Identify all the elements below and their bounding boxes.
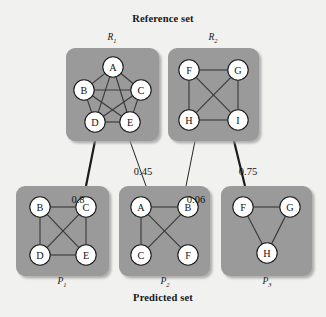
node-label: D <box>36 250 43 261</box>
graph-node-r2-f[interactable]: F <box>179 60 199 80</box>
cluster-label-subscript: 2 <box>166 281 169 288</box>
node-label: F <box>240 202 246 213</box>
node-label: A <box>109 62 117 73</box>
match-line-r1-p1[interactable] <box>86 141 95 186</box>
cluster-label-p2: P2 <box>145 276 185 288</box>
graph-node-r1-a[interactable]: A <box>103 57 123 77</box>
graph-node-p1-d[interactable]: D <box>30 245 50 265</box>
node-label: H <box>263 248 271 259</box>
node-label: E <box>83 250 89 261</box>
cluster-label-subscript: 2 <box>214 37 217 44</box>
match-line-r2-p2[interactable] <box>186 141 195 186</box>
node-label: I <box>236 115 240 126</box>
match-lines-layer <box>86 141 245 186</box>
graph-node-p1-b[interactable]: B <box>30 197 50 217</box>
graph-node-r2-h[interactable]: H <box>179 110 199 130</box>
cluster-label-subscript: 1 <box>63 281 66 288</box>
match-weight-r1-p1: 0.8 <box>71 194 84 205</box>
reference-set-title: Reference set <box>0 13 326 24</box>
graph-node-p3-f[interactable]: F <box>233 197 253 217</box>
graph-node-p1-e[interactable]: E <box>76 245 96 265</box>
graph-node-p3-h[interactable]: H <box>257 243 277 263</box>
graph-node-p2-a[interactable]: A <box>131 197 151 217</box>
graph-node-r1-d[interactable]: D <box>85 112 105 132</box>
cluster-boxes-layer <box>16 48 312 276</box>
node-label: G <box>234 65 242 76</box>
node-label: B <box>81 85 88 96</box>
graph-node-r2-g[interactable]: G <box>228 60 248 80</box>
graph-node-p2-f[interactable]: F <box>178 245 198 265</box>
node-label: D <box>91 117 98 128</box>
cluster-label-p3: P3 <box>247 276 287 288</box>
match-line-r2-p3[interactable] <box>234 141 245 186</box>
match-line-r1-p2[interactable] <box>130 141 146 186</box>
node-label: B <box>37 202 44 213</box>
node-label: F <box>186 65 192 76</box>
graph-node-r1-b[interactable]: B <box>74 80 94 100</box>
graph-node-p3-g[interactable]: G <box>280 197 300 217</box>
node-label: A <box>137 202 145 213</box>
graph-node-p2-c[interactable]: C <box>131 245 151 265</box>
match-weight-r2-p2: 0.06 <box>187 194 205 205</box>
cluster-label-r2: R2 <box>193 32 233 44</box>
cluster-label-subscript: 3 <box>268 281 271 288</box>
graph-node-r2-i[interactable]: I <box>228 110 248 130</box>
cluster-label-subscript: 1 <box>113 37 116 44</box>
graph-node-r1-e[interactable]: E <box>120 112 140 132</box>
predicted-set-title: Predicted set <box>0 292 326 303</box>
node-label: F <box>185 250 191 261</box>
graph-diagram-svg: ABCDEFGHIBCDEABCFFGH 0.80.450.060.75 <box>0 0 326 317</box>
node-label: H <box>185 115 193 126</box>
figure-canvas: ABCDEFGHIBCDEABCFFGH 0.80.450.060.75 Ref… <box>0 0 326 317</box>
cluster-label-p1: P1 <box>42 276 82 288</box>
node-label: G <box>286 202 294 213</box>
cluster-label-r1: R1 <box>92 32 132 44</box>
match-weight-r2-p3: 0.75 <box>239 166 257 177</box>
node-label: C <box>138 250 145 261</box>
match-weight-r1-p2: 0.45 <box>134 166 152 177</box>
node-label: E <box>127 117 133 128</box>
node-label: C <box>138 85 145 96</box>
graph-node-r1-c[interactable]: C <box>131 80 151 100</box>
